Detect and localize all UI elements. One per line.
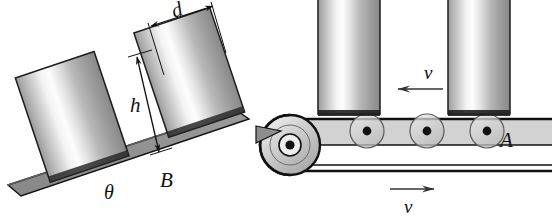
incline-group: d h θ B — [8, 0, 249, 203]
roller-axle — [423, 127, 432, 136]
velocity-arrow-top: v — [398, 62, 443, 89]
velocity-arrow-bottom: v — [390, 189, 434, 217]
roller-axle — [483, 127, 492, 136]
label-v-top: v — [424, 62, 433, 83]
cylinder-body — [448, 0, 510, 114]
cylinder-base-shadow — [318, 110, 380, 116]
label-v-bottom: v — [404, 196, 413, 217]
cylinder-body — [318, 0, 380, 114]
label-A: A — [498, 128, 513, 152]
roller-axle — [363, 127, 372, 136]
idler-roller-3 — [470, 114, 504, 148]
label-h: h — [130, 93, 141, 117]
belt-cylinder-right — [448, 0, 510, 116]
pulley-axle — [285, 140, 294, 149]
idler-roller-1 — [350, 114, 384, 148]
conveyor-group: v v A — [256, 0, 552, 217]
idler-roller-2 — [410, 114, 444, 148]
cylinder-base-shadow — [448, 110, 510, 116]
label-theta: θ — [104, 181, 114, 203]
figure-container: d h θ B — [0, 0, 552, 224]
diagram-svg: d h θ B — [0, 0, 552, 224]
label-B: B — [160, 168, 173, 192]
belt-cylinder-left — [318, 0, 380, 116]
